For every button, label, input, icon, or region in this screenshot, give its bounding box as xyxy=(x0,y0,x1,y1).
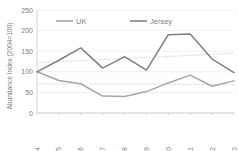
x-tick-label-2006: 2006 xyxy=(77,147,84,151)
series-line-jersey xyxy=(37,34,234,73)
legend-label-jersey: Jersey xyxy=(150,17,172,26)
x-tick-label-2005: 2005 xyxy=(55,147,62,151)
trendline-uk xyxy=(37,84,234,85)
trendlines xyxy=(37,53,234,84)
legend-label-uk: UK xyxy=(76,17,86,26)
x-tick-label-2008: 2008 xyxy=(121,147,128,151)
x-tick-label-2012: 2012 xyxy=(209,147,216,151)
y-tick-label-100: 100 xyxy=(21,68,33,75)
x-tick-label-2004: 2004 xyxy=(34,147,41,151)
y-tick-label-50: 50 xyxy=(25,89,33,96)
y-tick-label-250: 250 xyxy=(21,7,33,14)
x-axis-tick-labels: 2004200520062007200820092010201120122013 xyxy=(34,147,238,151)
y-tick-label-150: 150 xyxy=(21,48,33,55)
x-tick-label-2007: 2007 xyxy=(99,147,106,151)
data-series xyxy=(37,34,234,97)
x-tick-label-2010: 2010 xyxy=(165,147,172,151)
trendline-jersey xyxy=(37,53,234,62)
y-axis-title: Abundance Index (2004=100) xyxy=(6,22,14,109)
line-chart: 050100150200250 200420052006200720082009… xyxy=(0,0,239,151)
x-tick-label-2009: 2009 xyxy=(143,147,150,151)
y-tick-label-0: 0 xyxy=(29,110,33,117)
legend: UKJersey xyxy=(56,17,172,26)
y-axis-tick-labels: 050100150200250 xyxy=(21,7,33,117)
x-tick-label-2011: 2011 xyxy=(187,147,194,151)
y-tick-label-200: 200 xyxy=(21,27,33,34)
chart-canvas: 050100150200250 200420052006200720082009… xyxy=(0,0,239,151)
x-tick-label-2013: 2013 xyxy=(231,147,238,151)
